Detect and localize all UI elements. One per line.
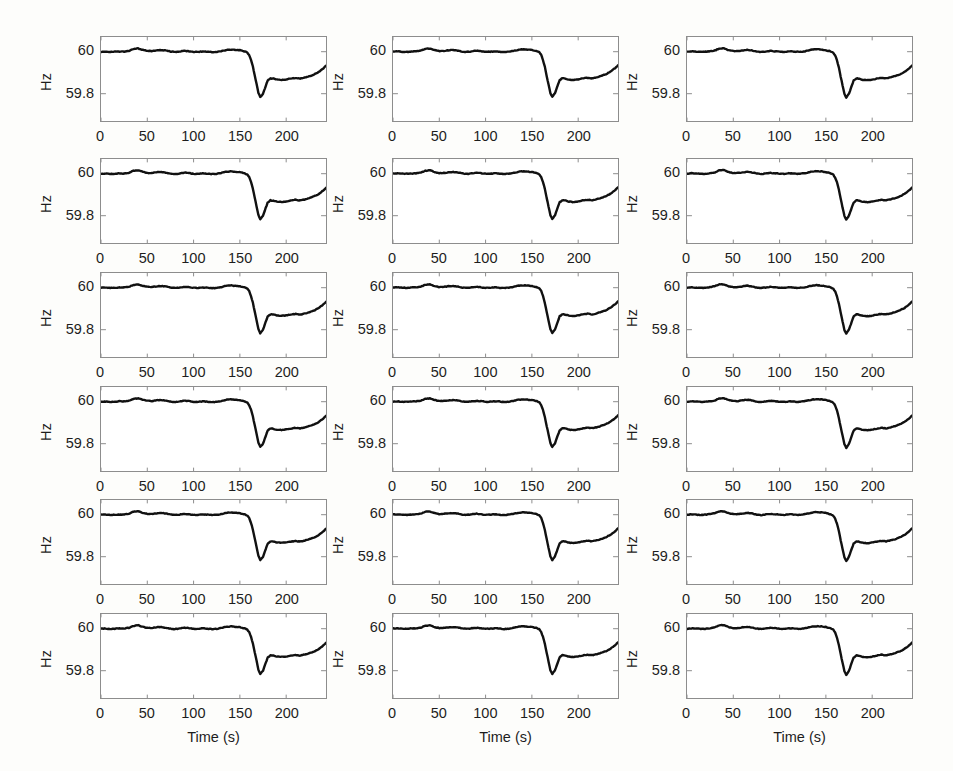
panel-grid: Hz6059.8050100150200Hz6059.8050100150200… — [0, 0, 953, 771]
x-tick-label: 0 — [666, 705, 706, 721]
chart-panel: Hz6059.8050100150200Time (s) — [0, 0, 953, 771]
y-tick-label: 60 — [636, 619, 680, 635]
x-tick-label: 200 — [853, 705, 893, 721]
x-tick-label: 150 — [806, 705, 846, 721]
x-axis-label: Time (s) — [686, 729, 913, 745]
x-tick-label: 50 — [713, 705, 753, 721]
y-tick-label: 59.8 — [636, 662, 680, 678]
x-tick-label: 100 — [759, 705, 799, 721]
plot-area — [686, 613, 913, 699]
